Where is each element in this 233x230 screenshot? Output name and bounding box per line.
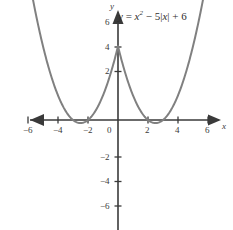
origin-label: 0 — [107, 126, 112, 135]
ytick-label-minus2: −2 — [100, 153, 110, 162]
xtick-label-6: 6 — [205, 126, 210, 135]
ytick-label-4: 4 — [105, 43, 110, 52]
xtick-label-minus4: −4 — [53, 126, 63, 135]
equation-exponent: 2 — [140, 9, 144, 17]
equation-annotation: y = x2 − 5|x| + 6 — [118, 11, 187, 22]
xtick-label-minus6: −6 — [23, 126, 33, 135]
function-graph-figure: −6 −4 −2 0 2 4 6 6 4 2 −2 −4 −6 x y y = … — [0, 0, 233, 230]
x-axis-label: x — [222, 122, 226, 131]
equation-lhs: y — [118, 10, 123, 22]
ytick-label-6: 6 — [105, 18, 110, 27]
ytick-label-minus6: −6 — [100, 202, 110, 211]
graph-canvas — [0, 0, 233, 230]
equation-tail: | + 6 — [167, 10, 186, 22]
ytick-label-2: 2 — [105, 67, 110, 76]
xtick-label-4: 4 — [175, 126, 180, 135]
y-axis-label: y — [110, 2, 114, 11]
equation-equals: = — [126, 10, 132, 22]
ytick-label-minus4: −4 — [100, 177, 110, 186]
xtick-label-minus2: −2 — [83, 126, 93, 135]
xtick-label-2: 2 — [145, 126, 150, 135]
equation-minus-term: − 5| — [146, 10, 163, 22]
